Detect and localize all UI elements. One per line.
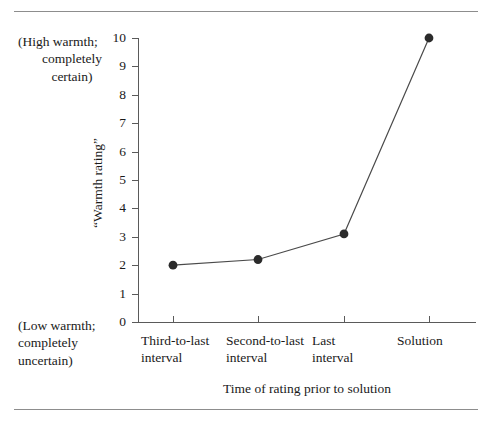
data-point-marker [254,255,263,264]
warmth-rating-line [173,38,429,265]
data-point-marker [340,230,349,239]
data-series-layer [0,0,492,421]
data-point-marker [169,261,178,270]
warmth-rating-points [169,34,434,270]
figure-container: (High warmth; completely certain) (Low w… [0,0,492,421]
data-point-marker [425,34,434,43]
